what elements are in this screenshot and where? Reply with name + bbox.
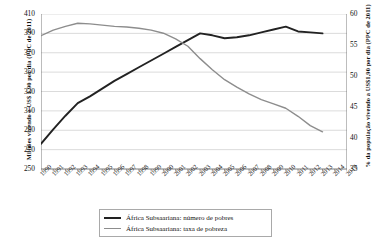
- x-axis-tick-label: 2002: [185, 163, 199, 177]
- x-axis-tick-label: 2015: [345, 163, 359, 177]
- legend-label-taxa-de-pobreza: África Subsaariana: taxa de pobreza: [126, 225, 227, 233]
- x-axis-ticks: 1990199119921993199419951996199719981999…: [0, 0, 386, 244]
- x-axis-tick-label: 2011: [296, 163, 310, 177]
- x-axis-tick-label: 1994: [87, 163, 101, 177]
- legend-swatch-gray-line-icon: [104, 228, 121, 229]
- legend-label-numero-de-pobres: África Subsaariana: número de pobres: [126, 214, 233, 222]
- legend-item-taxa-de-pobreza: África Subsaariana: taxa de pobreza: [104, 223, 267, 234]
- chart-container: Milhões vivendo a US$ 1,90 por dia (PPC …: [0, 0, 386, 244]
- chart-legend: África Subsaariana: número de pobres Áfr…: [99, 209, 272, 237]
- legend-swatch-dark-line-icon: [104, 217, 121, 219]
- legend-item-numero-de-pobres: África Subsaariana: número de pobres: [104, 212, 267, 223]
- x-axis-tick-label: 1990: [39, 163, 53, 177]
- x-axis-tick-label: 1998: [136, 163, 150, 177]
- x-axis-tick-label: 2014: [332, 163, 346, 177]
- x-axis-tick-label: 2006: [234, 163, 248, 177]
- x-axis-tick-label: 2010: [283, 163, 297, 177]
